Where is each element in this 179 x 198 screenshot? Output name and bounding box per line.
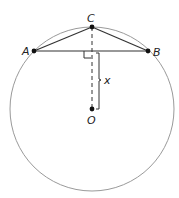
right-angle-marker [84, 51, 91, 58]
point-o [90, 107, 95, 112]
diagram-canvas: A B C O x [0, 0, 179, 198]
point-b [146, 49, 151, 54]
geometry-diagram: A B C O x [0, 0, 179, 198]
label-x: x [103, 74, 111, 87]
segment-cb [92, 27, 148, 51]
segment-ac [34, 27, 92, 51]
point-c [90, 25, 95, 30]
label-o: O [87, 114, 96, 127]
point-a [32, 49, 37, 54]
label-a: A [21, 45, 30, 58]
distance-bracket [96, 53, 101, 109]
label-b: B [153, 46, 161, 59]
label-c: C [87, 12, 95, 25]
